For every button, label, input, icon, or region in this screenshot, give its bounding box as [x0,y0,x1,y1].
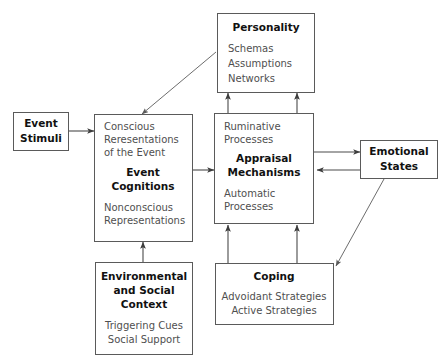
event-cognitions-title1: Event [126,166,160,178]
environmental-body2: Social Support [108,334,180,345]
event-cognitions-top2: Reresentations [104,134,179,145]
environmental-title2: and Social [113,284,174,296]
edge-emotional-to-coping [336,179,384,266]
node-personality[interactable]: Personality Schemas Assumptions Networks [218,14,315,93]
appraisal-bottom1: Automatic [224,188,275,199]
diagram-root: Personality Schemas Assumptions Networks… [0,0,443,361]
coping-body1: Advoidant Strategies [222,291,327,302]
event-stimuli-line1: Event [24,117,58,129]
edge-personality-to-cognitions [142,52,216,114]
node-environmental-context[interactable]: Environmental and Social Context Trigger… [96,263,193,355]
emotional-states-line2: States [380,160,418,172]
node-appraisal-mechanisms[interactable]: Ruminative Processes Appraisal Mechanism… [215,114,314,224]
appraisal-title2: Mechanisms [228,166,301,178]
emotional-states-line1: Emotional [369,145,428,157]
environmental-body1: Triggering Cues [104,320,183,331]
personality-line1: Schemas [228,43,273,54]
appraisal-title1: Appraisal [236,152,292,164]
event-cognitions-bottom2: Representations [104,215,185,226]
node-event-cognitions[interactable]: Conscious Reresentations of the Event Ev… [95,115,193,242]
event-cognitions-bottom1: Nonconscious [104,202,173,213]
event-cognitions-title2: Cognitions [111,180,174,192]
node-event-stimuli[interactable]: Event Stimuli [14,113,69,151]
event-cognitions-top3: of the Event [104,147,165,158]
environmental-title3: Context [121,298,167,310]
personality-line3: Networks [228,73,275,84]
appraisal-bottom2: Processes [224,201,273,212]
coping-title: Coping [253,270,294,282]
diagram-canvas: Personality Schemas Assumptions Networks… [0,0,443,361]
personality-line2: Assumptions [228,58,292,69]
coping-body2: Active Strategies [231,305,316,316]
node-coping[interactable]: Coping Advoidant Strategies Active Strat… [216,264,334,325]
appraisal-top2: Processes [224,134,273,145]
node-emotional-states[interactable]: Emotional States [361,141,438,179]
event-cognitions-top1: Conscious [104,121,155,132]
personality-title: Personality [232,21,299,33]
event-stimuli-line2: Stimuli [20,132,62,144]
environmental-title1: Environmental [101,270,187,282]
appraisal-top1: Ruminative [224,121,281,132]
